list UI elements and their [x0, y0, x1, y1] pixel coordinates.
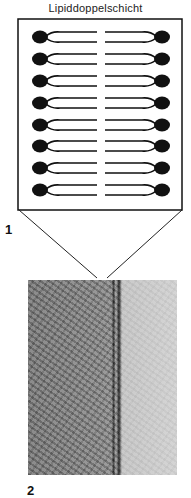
figure-label-2: 2	[27, 483, 34, 498]
lipid-rows	[32, 31, 170, 197]
lipid-row	[32, 119, 170, 132]
zoom-line-left	[19, 210, 97, 278]
electron-micrograph	[28, 280, 177, 475]
lipid-row	[32, 31, 170, 44]
micrograph-texture	[28, 280, 177, 475]
lipid-row	[32, 140, 170, 153]
lipid-row	[32, 162, 170, 175]
lipid-row	[32, 53, 170, 66]
zoom-line-right	[107, 210, 182, 278]
lipid-row	[32, 97, 170, 110]
lipid-row	[32, 184, 170, 197]
figure-label-1: 1	[5, 222, 12, 237]
lipid-row	[32, 75, 170, 88]
bilayer-frame	[18, 19, 182, 210]
